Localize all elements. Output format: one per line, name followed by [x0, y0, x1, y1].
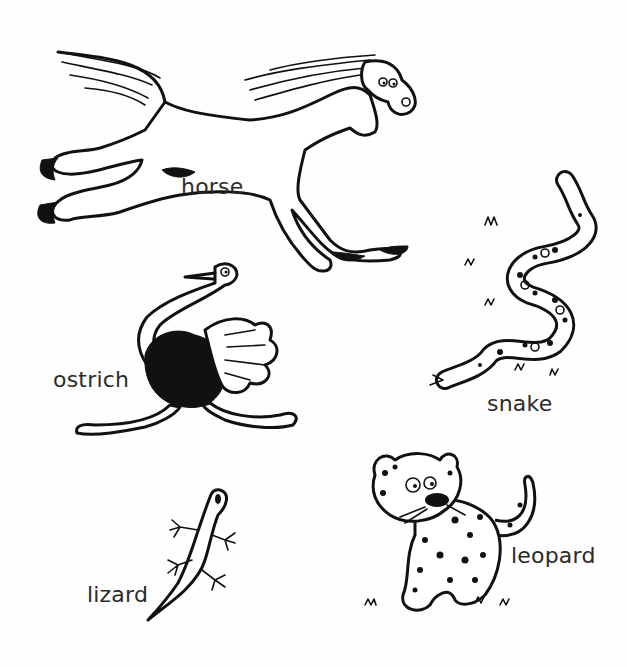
ostrich-illustration [65, 255, 345, 445]
horse-label: horse [181, 176, 243, 198]
lizard-label: lizard [87, 584, 148, 606]
snake-label: snake [487, 393, 552, 415]
leopard-illustration [355, 445, 555, 620]
leopard-label: leopard [511, 545, 596, 567]
lizard-illustration [140, 485, 240, 625]
horse-illustration [30, 40, 450, 280]
ostrich-label: ostrich [53, 369, 129, 391]
worksheet-page: horse snake [0, 0, 627, 667]
snake-illustration [425, 175, 615, 390]
